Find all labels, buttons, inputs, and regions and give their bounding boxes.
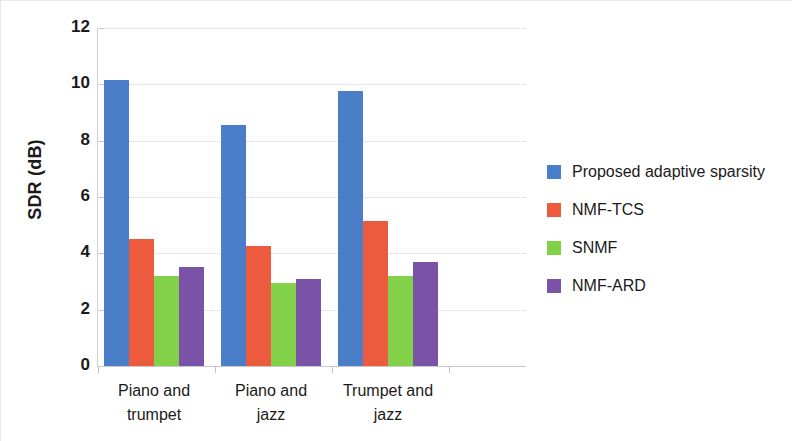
- x-axis-category-label-line: trumpet: [88, 403, 220, 427]
- bar: [338, 91, 363, 366]
- x-axis-category-label-line: Piano and: [88, 379, 220, 403]
- bar: [221, 125, 246, 366]
- y-axis-tick-label: 12: [50, 17, 90, 37]
- legend-item: SNMF: [547, 229, 765, 267]
- x-axis-category-label-line: Trumpet and: [322, 379, 454, 403]
- x-axis-category-label-line: Piano and: [205, 379, 337, 403]
- bar-group: [338, 28, 438, 366]
- legend-item-label: SNMF: [572, 239, 617, 257]
- y-axis-tick-label: 8: [50, 130, 90, 150]
- legend-item-label: NMF-ARD: [572, 277, 646, 295]
- x-axis-category-label: Piano andtrumpet: [88, 379, 220, 427]
- chart-legend: Proposed adaptive sparsityNMF-TCSSNMFNMF…: [547, 153, 765, 305]
- bar: [388, 276, 413, 366]
- bar: [179, 267, 204, 366]
- x-axis-category-label: Piano andjazz: [205, 379, 337, 427]
- legend-color-swatch: [547, 279, 561, 293]
- bar: [104, 80, 129, 366]
- legend-color-swatch: [547, 203, 561, 217]
- bar: [246, 246, 271, 366]
- y-axis-tick-label: 2: [50, 299, 90, 319]
- bar: [413, 262, 438, 366]
- plot-area: [98, 28, 526, 366]
- legend-color-swatch: [547, 241, 561, 255]
- x-axis-category-label-line: jazz: [322, 403, 454, 427]
- legend-color-swatch: [547, 165, 561, 179]
- x-axis-category-label: Trumpet andjazz: [322, 379, 454, 427]
- x-axis-tick-mark: [98, 366, 99, 373]
- bar-chart-figure: SDR (dB) 024681012 Piano andtrumpetPiano…: [0, 0, 792, 441]
- legend-item: NMF-ARD: [547, 267, 765, 305]
- x-axis-category-label-line: jazz: [205, 403, 337, 427]
- legend-item-label: Proposed adaptive sparsity: [572, 163, 765, 181]
- x-axis-tick-mark: [332, 366, 333, 373]
- bar: [154, 276, 179, 366]
- y-axis-tick-label: 4: [50, 242, 90, 262]
- legend-item-label: NMF-TCS: [572, 201, 644, 219]
- bar: [271, 283, 296, 366]
- x-axis-tick-mark: [215, 366, 216, 373]
- bar-group: [221, 28, 321, 366]
- legend-item: NMF-TCS: [547, 191, 765, 229]
- y-axis-tick-label: 0: [50, 355, 90, 375]
- y-axis-tick-label: 10: [50, 73, 90, 93]
- bar-group: [104, 28, 204, 366]
- y-axis-tick-label: 6: [50, 186, 90, 206]
- bar: [296, 279, 321, 366]
- legend-item: Proposed adaptive sparsity: [547, 153, 765, 191]
- y-axis-tick-labels: 024681012: [38, 28, 90, 366]
- gridline: [98, 366, 526, 367]
- x-axis-tick-mark: [449, 366, 450, 373]
- bar: [129, 239, 154, 366]
- bar: [363, 221, 388, 366]
